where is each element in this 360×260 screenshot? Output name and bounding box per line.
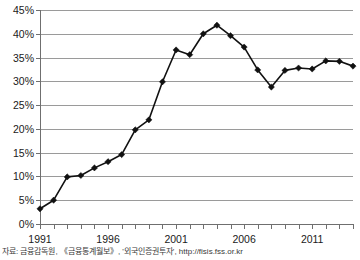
y-axis-tick-label: 10% — [13, 170, 34, 182]
data-point-marker — [173, 47, 179, 53]
x-axis-tick-label: 1991 — [28, 233, 52, 245]
line-chart: 0%5%10%15%20%25%30%35%40%45%199119962001… — [0, 0, 360, 246]
data-point-marker — [295, 65, 301, 71]
chart-container: 0%5%10%15%20%25%30%35%40%45%199119962001… — [0, 0, 360, 260]
data-point-marker — [105, 159, 111, 165]
y-axis-tick-label: 0% — [19, 218, 34, 230]
y-axis-tick-label: 40% — [13, 28, 34, 40]
source-note: 자료: 금융감독원, 《금융통계월보》, '외국인증권투자', http://f… — [2, 246, 358, 257]
data-point-marker — [119, 151, 125, 157]
data-point-marker — [336, 58, 342, 64]
y-axis-tick-label: 30% — [13, 75, 34, 87]
data-point-marker — [350, 63, 356, 69]
y-axis-tick-label: 45% — [13, 4, 34, 16]
x-axis-tick-label: 2001 — [164, 233, 188, 245]
y-axis-tick-label: 15% — [13, 147, 34, 159]
y-axis-tick-label: 5% — [19, 194, 34, 206]
series-line — [40, 25, 353, 209]
data-point-marker — [159, 79, 165, 85]
data-point-marker — [91, 165, 97, 171]
x-axis-tick-label: 1996 — [96, 233, 120, 245]
y-axis-tick-label: 35% — [13, 52, 34, 64]
x-axis-tick-label: 2006 — [232, 233, 256, 245]
data-point-marker — [78, 172, 84, 178]
y-axis-tick-label: 20% — [13, 123, 34, 135]
x-axis-tick-label: 2011 — [301, 233, 324, 245]
plot-area: 0%5%10%15%20%25%30%35%40%45%199119962001… — [0, 0, 360, 246]
y-axis-tick-label: 25% — [13, 99, 34, 111]
